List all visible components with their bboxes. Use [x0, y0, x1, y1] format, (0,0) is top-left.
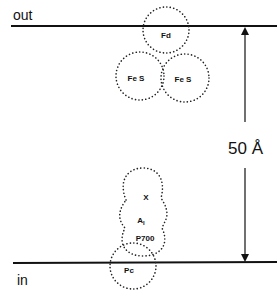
fes-left-label: Fe S [128, 74, 146, 83]
fd-circle [143, 7, 189, 53]
fes-right-label: Fe S [175, 75, 193, 84]
fd-label: Fd [161, 31, 171, 40]
arrow-down-head-icon [241, 254, 249, 262]
arrow-up-head-icon [241, 27, 249, 35]
distance-label: 50 Å [228, 139, 264, 158]
in-label: in [17, 272, 28, 288]
inner-membrane-line [13, 262, 277, 263]
pc-label: Pc [124, 266, 134, 275]
a1-label: AI [137, 216, 145, 226]
out-label: out [13, 7, 33, 23]
photosystem-diagram: out in Fd Fe S Fe S X AI P700 Pc 50 Å [0, 0, 280, 291]
x-label: X [143, 193, 149, 202]
p700-label: P700 [136, 234, 155, 243]
